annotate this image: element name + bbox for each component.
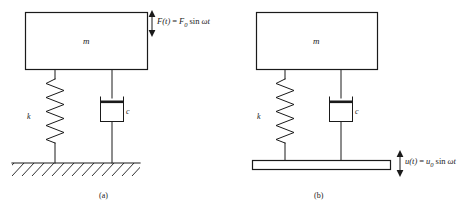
base-argument-b: ωt	[446, 156, 456, 166]
mass-label-a: m	[83, 37, 90, 46]
caption-b: (b)	[314, 192, 323, 200]
panel-a	[2, 10, 155, 176]
spring-b	[276, 79, 294, 143]
damper-label-b: c	[355, 108, 359, 116]
force-excitation-label-a: F(t)=F0sinωt	[157, 17, 210, 28]
mass-label-b: m	[313, 37, 320, 46]
base-displacement-arrow-b	[397, 150, 404, 177]
figure-canvas	[0, 0, 474, 209]
force-equals-a: =	[170, 16, 179, 26]
damper-piston-a	[101, 101, 124, 104]
vibration-figure: m k c F(t)=F0sinωt (a) m k c u(t)=u0sinω…	[0, 0, 474, 209]
base-excitation-label-b: u(t)=u0sinωt	[405, 157, 456, 168]
spring-a	[46, 79, 64, 143]
panel-b	[253, 13, 404, 178]
force-argument-a: ωt	[199, 16, 209, 26]
damper-label-a: c	[126, 108, 130, 116]
base-equals-b: =	[417, 156, 426, 166]
spring-label-b: k	[257, 113, 261, 121]
damper-piston-b	[330, 101, 353, 104]
caption-a: (a)	[99, 192, 108, 200]
force-trig-a: sin	[187, 16, 199, 26]
force-symbol-a: F(t)	[157, 16, 170, 26]
base-trig-b: sin	[434, 156, 446, 166]
moving-base-b	[253, 161, 391, 170]
spring-label-a: k	[27, 113, 31, 121]
ground-hatching-a	[2, 163, 144, 176]
damper-cylinder-a	[101, 103, 124, 122]
damper-cylinder-b	[330, 103, 353, 122]
base-symbol-b: u(t)	[405, 156, 417, 166]
force-arrow-a	[149, 10, 156, 37]
